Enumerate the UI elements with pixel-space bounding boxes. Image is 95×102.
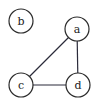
graph-diagram: abcd	[0, 0, 95, 102]
node-label: c	[18, 79, 24, 92]
node-c: c	[9, 73, 33, 97]
node-b: b	[9, 9, 33, 33]
node-label: a	[74, 23, 81, 36]
node-d: d	[66, 73, 90, 97]
node-label: d	[74, 79, 81, 92]
node-a: a	[65, 17, 89, 41]
edge-a-d	[77, 41, 78, 73]
node-label: b	[17, 15, 24, 28]
edge-a-c	[29, 37, 68, 76]
